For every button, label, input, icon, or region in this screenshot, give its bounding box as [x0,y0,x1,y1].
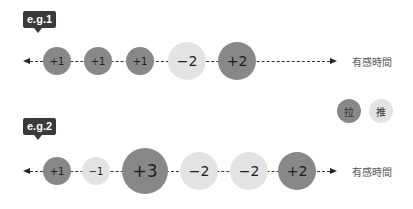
circle-push: −2 [168,42,206,80]
circle-pull: +2 [278,152,316,190]
circle-pull: +1 [43,157,71,185]
arrow-left-icon [23,168,30,174]
circle-value: −1 [89,166,104,177]
circle-pull: +1 [43,47,71,75]
circle-value: +2 [287,163,308,179]
circle-pull: +1 [84,47,112,75]
circle-pull: +2 [218,42,256,80]
circle-pull: +3 [122,148,168,194]
circle-value: +2 [227,53,248,69]
time-axis-label: 有感時間 [352,54,392,69]
circle-value: −2 [177,53,198,69]
arrow-left-icon [23,58,30,64]
time-axis-label: 有感時間 [352,164,392,179]
circle-value: +3 [132,161,157,181]
circle-push: −2 [180,152,218,190]
legend-push-label: 推 [376,104,386,119]
circle-value: −2 [189,163,210,179]
circle-value: +1 [50,56,65,67]
circle-value: +1 [50,166,65,177]
circle-push: −1 [82,157,110,185]
circle-push: −2 [230,152,268,190]
legend-push: 推 [369,99,393,123]
circle-value: −2 [239,163,260,179]
circle-pull: +1 [126,47,154,75]
arrow-right-icon [330,58,337,64]
legend-pull-label: 拉 [344,104,354,119]
circle-value: +1 [91,56,106,67]
legend-pull: 拉 [337,99,361,123]
circle-value: +1 [133,56,148,67]
arrow-right-icon [330,168,337,174]
example-2-badge: e.g.2 [23,118,56,135]
example-1-badge: e.g.1 [23,11,56,28]
